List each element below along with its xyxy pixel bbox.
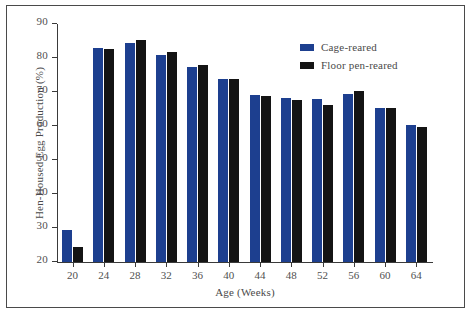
y-axis-tick: 20 bbox=[52, 261, 57, 262]
bar-cage-reared-64 bbox=[406, 125, 416, 262]
bar-floor-pen-reared-56 bbox=[354, 91, 364, 262]
y-axis-tick-label: 90 bbox=[37, 15, 48, 27]
chart-legend: Cage-rearedFloor pen-reared bbox=[300, 41, 398, 77]
bar-cage-reared-56 bbox=[343, 94, 353, 262]
x-axis-tick bbox=[135, 263, 136, 267]
bar-cage-reared-52 bbox=[312, 99, 322, 262]
x-axis-tick-label: 36 bbox=[192, 269, 203, 281]
bar-cage-reared-60 bbox=[375, 108, 385, 262]
y-axis-tick-label: 40 bbox=[37, 185, 48, 197]
x-axis-tick bbox=[323, 263, 324, 267]
y-axis-tick-label: 20 bbox=[37, 253, 48, 265]
x-axis-tick bbox=[260, 263, 261, 267]
x-axis-tick-label: 64 bbox=[411, 269, 422, 281]
bar-floor-pen-reared-48 bbox=[292, 100, 302, 262]
y-axis-tick: 60 bbox=[52, 125, 57, 126]
x-axis-tick bbox=[416, 263, 417, 267]
y-axis-tick-label: 70 bbox=[37, 83, 48, 95]
bar-floor-pen-reared-20 bbox=[73, 247, 83, 262]
x-axis-tick bbox=[229, 263, 230, 267]
x-axis-ticks: 202428323640444852566064 bbox=[57, 263, 433, 287]
bar-floor-pen-reared-24 bbox=[104, 49, 114, 262]
x-axis-tick bbox=[291, 263, 292, 267]
bar-floor-pen-reared-32 bbox=[167, 52, 177, 262]
legend-label: Cage-reared bbox=[321, 41, 377, 53]
y-axis-tick: 30 bbox=[52, 227, 57, 228]
bar-floor-pen-reared-44 bbox=[261, 96, 271, 262]
legend-item: Floor pen-reared bbox=[300, 59, 398, 71]
bar-floor-pen-reared-40 bbox=[229, 79, 239, 262]
bar-floor-pen-reared-28 bbox=[136, 40, 146, 262]
x-axis-tick bbox=[385, 263, 386, 267]
bar-cage-reared-24 bbox=[93, 48, 103, 262]
bar-cage-reared-32 bbox=[156, 55, 166, 262]
bar-cage-reared-44 bbox=[250, 95, 260, 262]
x-axis-tick-label: 40 bbox=[223, 269, 234, 281]
x-axis-tick bbox=[73, 263, 74, 267]
legend-item: Cage-reared bbox=[300, 41, 398, 53]
x-axis-tick-label: 32 bbox=[161, 269, 172, 281]
bar-cage-reared-20 bbox=[62, 230, 72, 262]
legend-swatch-icon bbox=[300, 62, 314, 69]
x-axis-tick-label: 28 bbox=[129, 269, 140, 281]
x-axis-tick-label: 20 bbox=[67, 269, 78, 281]
x-axis-tick-label: 48 bbox=[286, 269, 297, 281]
x-axis-tick bbox=[198, 263, 199, 267]
bar-cage-reared-48 bbox=[281, 98, 291, 262]
y-axis-tick: 80 bbox=[52, 57, 57, 58]
y-axis-tick: 50 bbox=[52, 159, 57, 160]
legend-label: Floor pen-reared bbox=[321, 59, 398, 71]
chart-figure: Hen-Housed Egg Production (%) 2030405060… bbox=[0, 0, 471, 320]
bar-floor-pen-reared-52 bbox=[323, 105, 333, 262]
x-axis-tick-label: 60 bbox=[379, 269, 390, 281]
bar-cage-reared-28 bbox=[125, 43, 135, 262]
x-axis-tick bbox=[354, 263, 355, 267]
bar-floor-pen-reared-60 bbox=[386, 108, 396, 262]
y-axis-tick: 40 bbox=[52, 193, 57, 194]
y-axis-tick: 70 bbox=[52, 91, 57, 92]
y-axis-tick-label: 60 bbox=[37, 117, 48, 129]
y-axis-tick: 90 bbox=[52, 23, 57, 24]
x-axis-tick-label: 56 bbox=[348, 269, 359, 281]
bar-floor-pen-reared-64 bbox=[417, 127, 427, 262]
x-axis-tick bbox=[166, 263, 167, 267]
y-axis-tick-label: 30 bbox=[37, 219, 48, 231]
bar-cage-reared-36 bbox=[187, 67, 197, 262]
x-axis-tick bbox=[104, 263, 105, 267]
legend-swatch-icon bbox=[300, 44, 314, 51]
x-axis-tick-label: 52 bbox=[317, 269, 328, 281]
bar-cage-reared-40 bbox=[218, 79, 228, 262]
y-axis-tick-label: 50 bbox=[37, 151, 48, 163]
x-axis-title: Age (Weeks) bbox=[57, 286, 433, 298]
y-axis-tick-label: 80 bbox=[37, 49, 48, 61]
x-axis-tick-label: 24 bbox=[98, 269, 109, 281]
bar-floor-pen-reared-36 bbox=[198, 65, 208, 262]
x-axis-tick-label: 44 bbox=[254, 269, 265, 281]
